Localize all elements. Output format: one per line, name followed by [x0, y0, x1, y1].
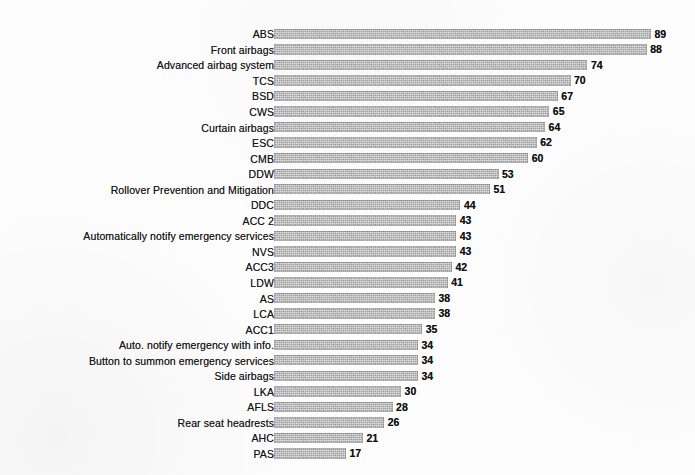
bar-value-label: 70: [574, 74, 586, 86]
bar-value-label: 43: [460, 245, 472, 257]
bar-row: TCS70: [0, 74, 695, 90]
bar-track: 74: [274, 58, 695, 74]
bar: [274, 137, 537, 147]
category-label: Side airbags: [14, 371, 274, 382]
bar-track: 60: [274, 151, 695, 167]
bar-value-label: 21: [366, 432, 378, 444]
category-label: Curtain airbags: [14, 123, 274, 134]
bar-value-label: 35: [426, 323, 438, 335]
category-label: AFLS: [14, 402, 274, 413]
bar-value-label: 34: [422, 354, 434, 366]
bar-value-label: 44: [464, 199, 476, 211]
bar-track: 65: [274, 105, 695, 121]
category-label: CMB: [14, 154, 274, 165]
bar-row: LKA30: [0, 385, 695, 401]
bar-track: 34: [274, 338, 695, 354]
category-label: AS: [14, 294, 274, 305]
bar-row: Advanced airbag system74: [0, 58, 695, 74]
bar-row: Auto. notify emergency with info.34: [0, 338, 695, 354]
category-label: Button to summon emergency services: [14, 356, 274, 367]
bar-row: Rollover Prevention and Mitigation51: [0, 182, 695, 198]
bar: [274, 60, 587, 70]
bar-row: PAS17: [0, 447, 695, 463]
bar-track: 38: [274, 291, 695, 307]
bar-track: 89: [274, 27, 695, 43]
bar-row: Side airbags34: [0, 369, 695, 385]
category-label: LKA: [14, 387, 274, 398]
bar-value-label: 65: [553, 105, 565, 117]
bar-track: 88: [274, 43, 695, 59]
category-label: Auto. notify emergency with info.: [14, 340, 274, 351]
bar-track: 35: [274, 322, 695, 338]
bar-row: Button to summon emergency services34: [0, 353, 695, 369]
bar-track: 62: [274, 136, 695, 152]
bar-value-label: 28: [396, 401, 408, 413]
bar-value-label: 60: [532, 152, 544, 164]
bar-value-label: 38: [438, 307, 450, 319]
bar-value-label: 53: [502, 168, 514, 180]
bar-row: ACC 243: [0, 214, 695, 230]
bar-row: ACC135: [0, 322, 695, 338]
bar: [274, 371, 418, 381]
category-label: NVS: [14, 247, 274, 258]
bar-value-label: 38: [438, 292, 450, 304]
bar-track: 30: [274, 385, 695, 401]
category-label: DDC: [14, 200, 274, 211]
bar: [274, 29, 651, 39]
category-label: ESC: [14, 138, 274, 149]
bar: [274, 153, 528, 163]
category-label: DDW: [14, 169, 274, 180]
bar-track: 44: [274, 198, 695, 214]
category-label: Front airbags: [14, 45, 274, 56]
bar: [274, 293, 435, 303]
bar: [274, 355, 418, 365]
bar-value-label: 17: [350, 447, 362, 459]
bar-value-label: 34: [422, 339, 434, 351]
bar-track: 28: [274, 400, 695, 416]
bar-value-label: 51: [494, 183, 506, 195]
bar-row: AFLS28: [0, 400, 695, 416]
bar-row: BSD67: [0, 89, 695, 105]
bar-value-label: 42: [455, 261, 467, 273]
bar-track: 64: [274, 120, 695, 136]
category-label: ACC 2: [14, 216, 274, 227]
bar: [274, 340, 418, 350]
bar-row: AHC21: [0, 431, 695, 447]
bar-row: CMB60: [0, 151, 695, 167]
bar: [274, 308, 435, 318]
bar: [274, 262, 452, 272]
category-label: PAS: [14, 449, 274, 460]
category-label: BSD: [14, 91, 274, 102]
bar: [274, 215, 456, 225]
bar-row: ACC342: [0, 260, 695, 276]
category-label: ACC1: [14, 325, 274, 336]
bar-row: NVS43: [0, 245, 695, 261]
bar: [274, 75, 571, 85]
category-label: CWS: [14, 107, 274, 118]
bar-track: 26: [274, 416, 695, 432]
bar-value-label: 64: [549, 121, 561, 133]
bar-track: 67: [274, 89, 695, 105]
bar-value-label: 41: [451, 276, 463, 288]
bar-value-label: 74: [591, 59, 603, 71]
bar-row: CWS65: [0, 105, 695, 121]
bar-track: 43: [274, 229, 695, 245]
category-label: Rollover Prevention and Mitigation: [14, 185, 274, 196]
category-label: ABS: [14, 29, 274, 40]
bar-row: AS38: [0, 291, 695, 307]
bar-row: DDC44: [0, 198, 695, 214]
bar: [274, 417, 384, 427]
bar-track: 21: [274, 431, 695, 447]
bar: [274, 200, 460, 210]
bar-value-label: 88: [650, 43, 662, 55]
bar-rows-container: ABS89Front airbags88Advanced airbag syst…: [0, 27, 695, 462]
bar: [274, 386, 401, 396]
bar-value-label: 67: [561, 90, 573, 102]
bar-value-label: 34: [422, 370, 434, 382]
bar-track: 43: [274, 245, 695, 261]
bar: [274, 433, 363, 443]
bar-track: 17: [274, 447, 695, 463]
bar-value-label: 43: [460, 230, 472, 242]
bar-value-label: 62: [540, 136, 552, 148]
bar-row: LCA38: [0, 307, 695, 323]
